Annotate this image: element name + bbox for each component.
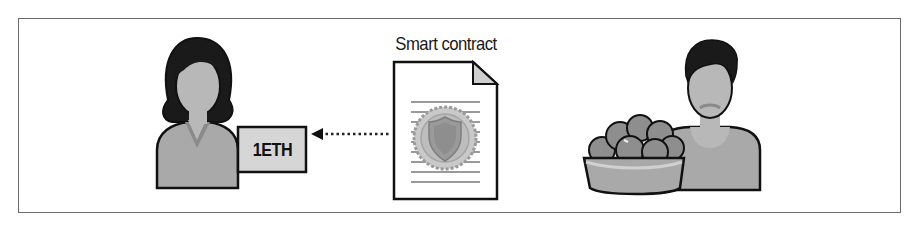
man-with-fruit-basket-icon	[584, 40, 760, 194]
payment-arrow-icon	[311, 128, 391, 140]
eth-amount-label: 1ETH	[244, 128, 301, 172]
smart-contract-title: Smart contract	[388, 33, 504, 55]
woman-avatar-icon	[157, 38, 238, 188]
document-with-seal-icon	[394, 62, 497, 199]
